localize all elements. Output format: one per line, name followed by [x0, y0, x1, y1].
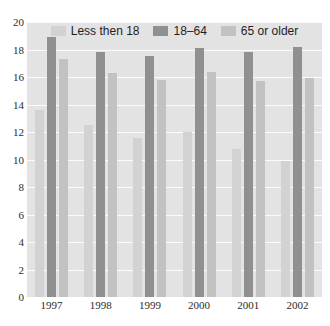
- y-tick-label: 12: [0, 127, 24, 138]
- y-tick-label: 10: [0, 154, 24, 165]
- y-tick-label: 2: [0, 264, 24, 275]
- gridline: [27, 187, 322, 188]
- x-tick-label: 1998: [90, 300, 112, 311]
- bar: [133, 138, 142, 298]
- bar: [59, 59, 68, 297]
- y-tick-label: 6: [0, 209, 24, 220]
- gridline: [27, 242, 322, 243]
- x-tick-label: 1999: [139, 300, 161, 311]
- bar: [281, 161, 290, 297]
- bar: [84, 125, 93, 297]
- bar: [157, 80, 166, 297]
- bar: [35, 110, 44, 297]
- x-tick-label: 2001: [237, 300, 259, 311]
- gridline: [27, 270, 322, 271]
- x-tick-label: 1997: [41, 300, 63, 311]
- bar: [183, 132, 192, 297]
- gridline: [27, 50, 322, 51]
- bar-chart: 02468101214161820 1997199819992000200120…: [0, 0, 330, 326]
- bar: [108, 73, 117, 297]
- bar: [256, 81, 265, 297]
- x-tick-label: 2002: [286, 300, 308, 311]
- y-tick-label: 20: [0, 17, 24, 28]
- bar: [145, 56, 154, 297]
- gridline: [27, 160, 322, 161]
- y-axis: 02468101214161820: [0, 0, 24, 326]
- bar: [47, 37, 56, 297]
- y-tick-label: 4: [0, 237, 24, 248]
- gridline: [27, 105, 322, 106]
- bar: [305, 78, 314, 297]
- y-tick-label: 14: [0, 99, 24, 110]
- bar: [96, 52, 105, 297]
- bar: [293, 47, 302, 297]
- bar: [207, 72, 216, 298]
- bar: [195, 48, 204, 297]
- x-tick-label: 2000: [188, 300, 210, 311]
- gridline: [27, 22, 322, 23]
- y-tick-label: 18: [0, 44, 24, 55]
- y-tick-label: 16: [0, 72, 24, 83]
- gridline: [27, 215, 322, 216]
- y-tick-label: 0: [0, 292, 24, 303]
- x-axis: 199719981999200020012002: [27, 300, 322, 320]
- bar: [244, 52, 253, 297]
- plot-area: [27, 22, 322, 297]
- gridline: [27, 132, 322, 133]
- y-tick-label: 8: [0, 182, 24, 193]
- gridline: [27, 77, 322, 78]
- bar: [232, 149, 241, 298]
